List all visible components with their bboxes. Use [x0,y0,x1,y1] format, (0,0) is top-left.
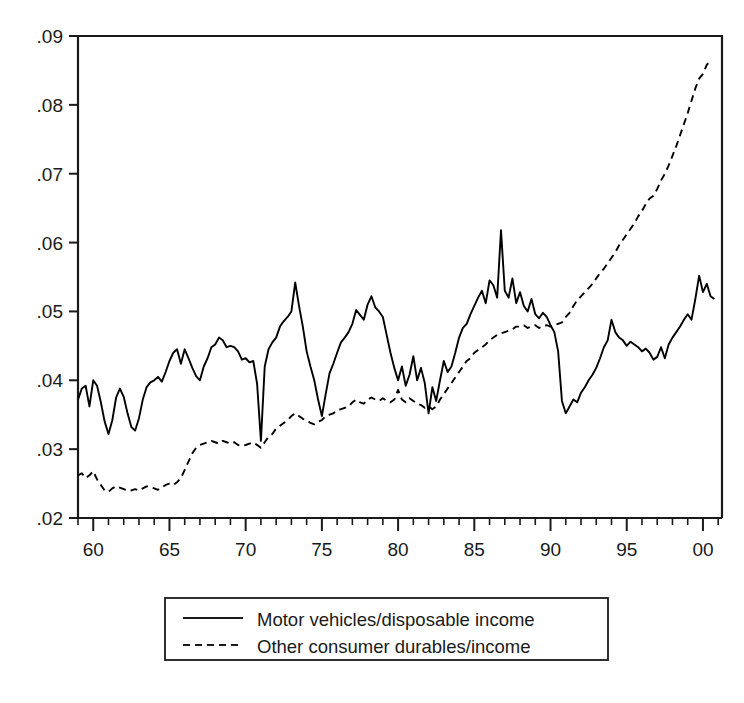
x-tick-label: 95 [616,539,637,560]
legend-label-2: Other consumer durables/income [257,636,531,657]
x-tick-label: 80 [388,539,409,560]
x-tick-label: 90 [540,539,561,560]
chart-figure: .02.03.04.05.06.07.08.09 606570758085909… [0,0,744,703]
y-tick-label: .09 [37,26,63,47]
x-tick-label: 70 [235,539,256,560]
y-tick-label: .08 [37,95,63,116]
x-tick-label: 60 [83,539,104,560]
y-tick-label: .06 [37,233,63,254]
y-tick-label: .02 [37,508,63,529]
y-tick-label: .04 [37,370,64,391]
x-tick-label: 65 [159,539,180,560]
x-tick-label: 75 [311,539,332,560]
legend-label-1: Motor vehicles/disposable income [257,609,535,630]
line-chart: .02.03.04.05.06.07.08.09 606570758085909… [0,0,744,703]
y-tick-label: .07 [37,164,63,185]
y-tick-label: .03 [37,439,63,460]
y-tick-label: .05 [37,301,63,322]
x-tick-label: 85 [464,539,485,560]
x-tick-label: 00 [692,539,713,560]
chart-legend: Motor vehicles/disposable incomeOther co… [165,598,608,660]
